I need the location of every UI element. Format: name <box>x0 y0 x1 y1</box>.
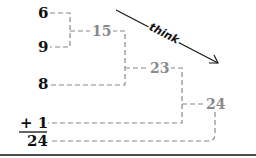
bracket-15-8 <box>50 31 125 85</box>
bracket-23-1 <box>48 68 182 123</box>
addend-9: 9 <box>38 40 48 55</box>
bracket-24-result <box>50 112 215 141</box>
bracket-6-9 <box>50 13 70 47</box>
addend-6: 6 <box>38 6 48 21</box>
partial-sum-15: 15 <box>90 24 113 38</box>
result-24: 24 <box>27 134 48 149</box>
partial-sum-24: 24 <box>204 97 227 111</box>
addend-8: 8 <box>38 77 48 92</box>
addend-plus-1: + 1 <box>20 116 48 131</box>
partial-sum-23: 23 <box>148 61 171 75</box>
